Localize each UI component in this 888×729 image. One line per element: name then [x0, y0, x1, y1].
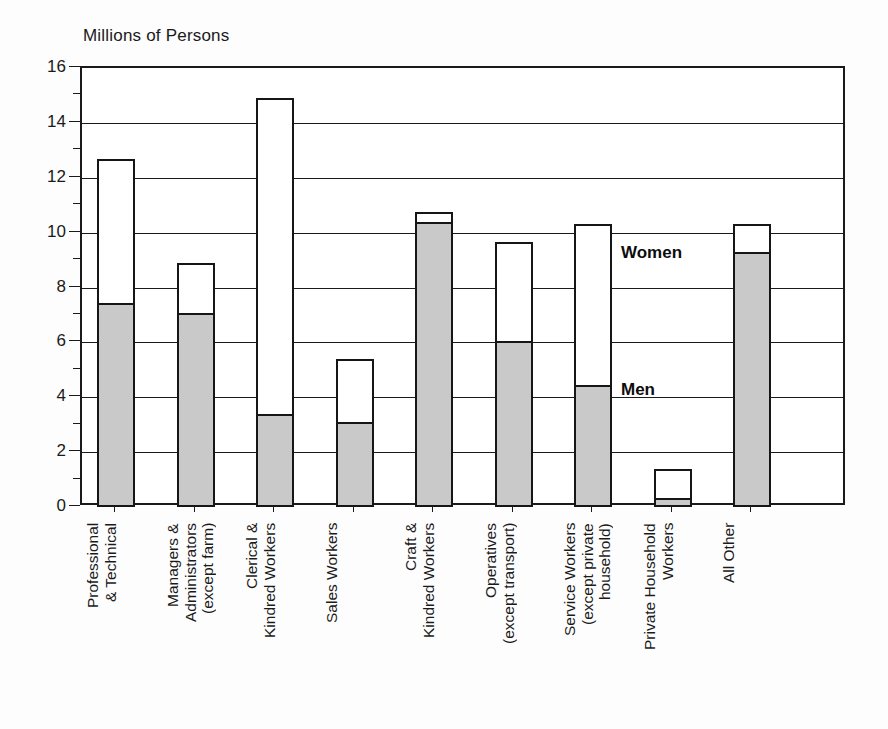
- y-tick-label: 6: [32, 332, 66, 349]
- y-tick-mark: [69, 66, 80, 67]
- category-label: Sales Workers: [323, 523, 383, 698]
- category-label: All Other: [720, 523, 780, 698]
- x-tick-mark: [273, 505, 274, 512]
- bar-segment-men: [497, 341, 531, 505]
- bar-stack: [336, 359, 374, 507]
- gridline: [82, 233, 843, 234]
- bar-segment-men: [576, 385, 610, 505]
- y-tick-mark-minor: [73, 368, 80, 369]
- y-tick-mark-minor: [73, 423, 80, 424]
- y-tick-mark-minor: [73, 478, 80, 479]
- plot-area: MenWomen: [80, 66, 845, 505]
- bar-segment-men: [338, 422, 372, 505]
- series-label-women: Women: [621, 243, 682, 263]
- y-tick-mark: [69, 231, 80, 232]
- bar-stack: [177, 263, 215, 507]
- y-tick-mark: [69, 505, 80, 506]
- bar-segment-men: [417, 222, 451, 505]
- chart-title: Millions of Persons: [83, 26, 229, 46]
- bar-segment-men: [656, 498, 690, 505]
- y-tick-mark: [69, 176, 80, 177]
- category-label: Private Household Workers: [641, 523, 701, 698]
- y-tick-label: 14: [32, 112, 66, 129]
- y-tick-label: 10: [32, 222, 66, 239]
- y-tick-mark-minor: [73, 203, 80, 204]
- y-tick-mark-minor: [73, 93, 80, 94]
- y-tick-label: 16: [32, 58, 66, 75]
- y-tick-mark: [69, 286, 80, 287]
- y-tick-mark: [69, 121, 80, 122]
- x-tick-mark: [750, 505, 751, 512]
- y-axis-tick-labels: 0246810121416: [28, 0, 66, 729]
- bar-stack: [256, 98, 294, 507]
- bar-stack: [495, 242, 533, 507]
- x-tick-mark: [353, 505, 354, 512]
- y-tick-mark-minor: [73, 313, 80, 314]
- bar-stack: [415, 212, 453, 507]
- x-tick-mark: [432, 505, 433, 512]
- y-tick-mark-minor: [73, 148, 80, 149]
- category-label: Operatives (except transport): [482, 523, 542, 698]
- y-tick-label: 4: [32, 387, 66, 404]
- x-tick-mark: [114, 505, 115, 512]
- category-label: Clerical & Kindred Workers: [243, 523, 303, 698]
- chart-page: Millions of Persons 0246810121416 MenWom…: [0, 0, 888, 729]
- bar-segment-men: [735, 252, 769, 505]
- bar-segment-men: [258, 414, 292, 505]
- gridline: [82, 123, 843, 124]
- y-tick-label: 12: [32, 167, 66, 184]
- x-tick-mark: [591, 505, 592, 512]
- y-tick-mark: [69, 450, 80, 451]
- x-tick-mark: [194, 505, 195, 512]
- y-tick-mark: [69, 395, 80, 396]
- x-tick-mark: [671, 505, 672, 512]
- gridline: [82, 178, 843, 179]
- series-label-men: Men: [621, 380, 655, 400]
- category-label: Managers & Administrators (except farm): [164, 523, 224, 698]
- category-label: Craft & Kindred Workers: [402, 523, 462, 698]
- bar-segment-men: [179, 313, 213, 505]
- bar-stack: [574, 224, 612, 507]
- y-tick-label: 0: [32, 497, 66, 514]
- y-tick-label: 8: [32, 277, 66, 294]
- category-label: Service Workers (except private househol…: [561, 523, 621, 698]
- y-tick-mark-minor: [73, 258, 80, 259]
- y-tick-label: 2: [32, 442, 66, 459]
- bar-stack: [97, 159, 135, 507]
- bar-stack: [733, 224, 771, 507]
- y-tick-mark: [69, 340, 80, 341]
- bar-stack: [654, 469, 692, 507]
- bar-segment-men: [99, 303, 133, 505]
- category-label: Professional & Technical: [84, 523, 144, 698]
- x-tick-mark: [512, 505, 513, 512]
